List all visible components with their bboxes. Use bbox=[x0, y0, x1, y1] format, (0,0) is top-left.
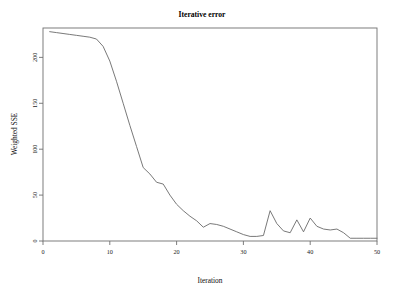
x-tick-label: 10 bbox=[107, 248, 113, 255]
x-tick-label: 0 bbox=[41, 248, 44, 255]
iterative-error-line-chart: Iterative error 050100150200 01020304050… bbox=[0, 0, 405, 292]
x-axis-title: Iteration bbox=[197, 276, 222, 285]
y-tick-label: 0 bbox=[31, 239, 38, 242]
chart-title: Iterative error bbox=[179, 10, 226, 19]
y-tick-label: 150 bbox=[31, 99, 38, 108]
y-tick-label: 50 bbox=[31, 192, 38, 198]
x-tick-label: 30 bbox=[240, 248, 246, 255]
x-tick-label: 20 bbox=[174, 248, 180, 255]
y-tick-label: 200 bbox=[31, 53, 38, 62]
figure-background bbox=[0, 0, 405, 292]
y-tick-label: 100 bbox=[31, 145, 38, 154]
x-tick-label: 40 bbox=[307, 248, 313, 255]
chart-figure: Iterative error 050100150200 01020304050… bbox=[0, 0, 405, 292]
x-tick-label: 50 bbox=[374, 248, 380, 255]
y-axis-title: Weighted SSE bbox=[10, 112, 19, 155]
